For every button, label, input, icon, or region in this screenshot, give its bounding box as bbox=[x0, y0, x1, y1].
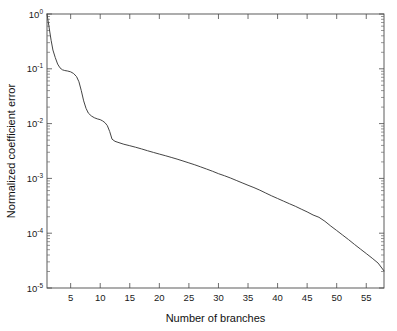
y-tick-mantissa-1: 10 bbox=[27, 63, 38, 74]
plot-area-background bbox=[47, 14, 384, 288]
x-tick-label-8: 45 bbox=[302, 292, 313, 303]
y-tick-mantissa-5: 10 bbox=[27, 283, 38, 294]
y-tick-mantissa-2: 10 bbox=[27, 118, 38, 129]
x-tick-label-10: 55 bbox=[361, 292, 372, 303]
x-tick-label-9: 50 bbox=[331, 292, 342, 303]
figure-container: 10010-110-210-310-410-5 5101520253035404… bbox=[0, 0, 397, 331]
y-tick-exponent-5: -5 bbox=[37, 282, 43, 289]
x-tick-label-0: 5 bbox=[68, 292, 73, 303]
y-tick-mantissa-4: 10 bbox=[27, 228, 38, 239]
y-tick-exponent-0: 0 bbox=[39, 8, 43, 15]
y-tick-exponent-3: -3 bbox=[37, 172, 43, 179]
x-tick-label-1: 10 bbox=[95, 292, 106, 303]
x-tick-label-2: 15 bbox=[124, 292, 135, 303]
x-tick-label-4: 25 bbox=[184, 292, 195, 303]
x-tick-label-7: 40 bbox=[272, 292, 283, 303]
y-tick-mantissa-0: 10 bbox=[29, 9, 40, 20]
x-tick-label-5: 30 bbox=[213, 292, 224, 303]
y-tick-exponent-2: -2 bbox=[37, 117, 43, 124]
x-tick-label-6: 35 bbox=[243, 292, 254, 303]
y-axis-title: Normalized coefficient error bbox=[5, 84, 17, 219]
y-tick-exponent-1: -1 bbox=[37, 62, 43, 69]
y-tick-exponent-4: -4 bbox=[37, 227, 43, 234]
y-tick-mantissa-3: 10 bbox=[27, 173, 38, 184]
x-tick-label-3: 20 bbox=[154, 292, 165, 303]
line-chart: 10010-110-210-310-410-5 5101520253035404… bbox=[0, 0, 397, 331]
x-axis-title: Number of branches bbox=[166, 312, 266, 324]
